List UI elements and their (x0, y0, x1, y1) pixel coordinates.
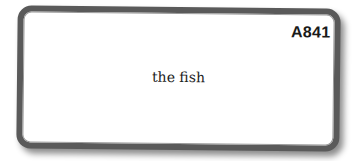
label-card: A841 the fish (16, 5, 340, 151)
card-text: the fish (23, 67, 334, 86)
card-code: A841 (291, 23, 331, 41)
